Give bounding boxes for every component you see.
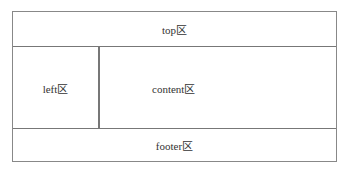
content-label: content区 bbox=[152, 80, 195, 96]
left-region: left区 bbox=[13, 47, 100, 128]
footer-label: footer区 bbox=[156, 137, 193, 153]
top-label: top区 bbox=[162, 21, 187, 37]
layout-frame: top区 left区 content区 footer区 bbox=[12, 11, 337, 162]
left-label: left区 bbox=[43, 80, 69, 96]
content-region: content区 bbox=[100, 47, 336, 128]
top-region: top区 bbox=[13, 12, 336, 47]
footer-region: footer区 bbox=[13, 128, 336, 161]
